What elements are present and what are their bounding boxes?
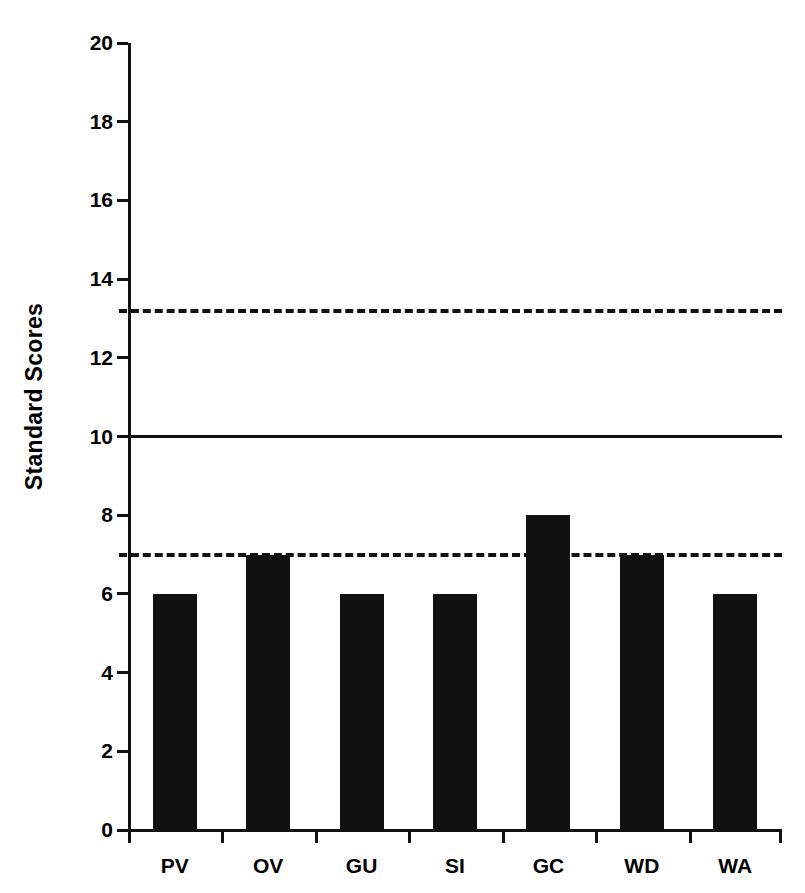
bar-si <box>433 594 477 830</box>
bar-gu <box>340 594 384 830</box>
y-axis-title: Standard Scores <box>21 257 48 537</box>
y-axis-tick <box>117 750 128 753</box>
y-axis-tick <box>117 356 128 359</box>
plot-area: 02468101214161820 PVOVGUSIGCWDWA <box>128 43 782 830</box>
y-axis-tick <box>117 829 128 832</box>
x-axis-tick <box>595 830 598 843</box>
bar-ov <box>246 555 290 830</box>
y-axis-tick <box>117 199 128 202</box>
upper-band-line <box>119 309 782 313</box>
lower-band-line <box>119 553 782 557</box>
y-axis-tick-label: 12 <box>90 346 113 370</box>
y-axis-tick <box>117 514 128 517</box>
x-axis-tick <box>502 830 505 843</box>
x-axis-label-pv: PV <box>161 854 189 878</box>
bar-wa <box>713 594 757 830</box>
y-axis-tick-label: 18 <box>90 110 113 134</box>
y-axis-tick-label: 16 <box>90 188 113 212</box>
y-axis-tick <box>117 278 128 281</box>
x-axis-label-gc: GC <box>533 854 565 878</box>
x-axis-tick <box>221 830 224 843</box>
y-axis-tick <box>117 120 128 123</box>
x-axis-tick <box>779 830 782 843</box>
y-axis-tick <box>117 671 128 674</box>
x-axis-tick <box>689 830 692 843</box>
bar-wd <box>620 555 664 830</box>
y-axis-tick <box>117 42 128 45</box>
y-axis-tick-label: 20 <box>90 31 113 55</box>
bar-chart-figure: Standard Scores 02468101214161820 PVOVGU… <box>0 0 805 893</box>
y-axis-tick-label: 2 <box>101 739 113 763</box>
x-axis-label-ov: OV <box>253 854 283 878</box>
x-axis-label-si: SI <box>445 854 465 878</box>
y-axis-tick-label: 8 <box>101 503 113 527</box>
y-axis-tick <box>117 592 128 595</box>
y-axis-tick-label: 14 <box>90 267 113 291</box>
x-axis-tick <box>128 830 131 843</box>
y-axis-tick-label: 6 <box>101 582 113 606</box>
x-axis-label-gu: GU <box>346 854 378 878</box>
y-axis-tick-label: 0 <box>101 818 113 842</box>
x-axis-label-wd: WD <box>624 854 659 878</box>
mean-line <box>119 435 782 438</box>
y-axis-tick-label: 10 <box>90 425 113 449</box>
x-axis-label-wa: WA <box>718 854 752 878</box>
y-axis-tick-label: 4 <box>101 661 113 685</box>
x-axis-tick <box>408 830 411 843</box>
bar-pv <box>153 594 197 830</box>
bar-gc <box>526 515 570 830</box>
x-axis-tick <box>315 830 318 843</box>
